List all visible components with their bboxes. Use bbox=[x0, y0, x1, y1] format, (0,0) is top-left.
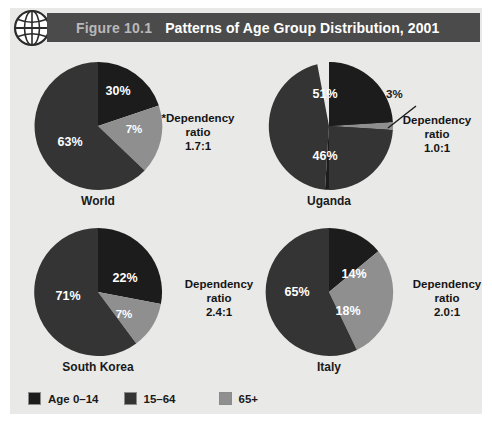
legend-item-age-0-14: Age 0–14 bbox=[28, 392, 99, 405]
slice-label-sk-0: 22% bbox=[112, 271, 137, 285]
legend-swatch-age-15-64 bbox=[124, 392, 137, 405]
slice-label-world-2: 63% bbox=[57, 135, 82, 149]
slice-label-italy-0: 14% bbox=[341, 267, 366, 281]
slice-label-italy-2: 65% bbox=[284, 285, 309, 299]
dependency-value-uganda: 1.0:1 bbox=[394, 141, 480, 155]
dependency-word-uganda: Dependency bbox=[394, 113, 480, 127]
slice-sk-age-0-14 bbox=[98, 228, 162, 304]
dependency-value-italy: 2.0:1 bbox=[404, 305, 490, 319]
legend-swatch-age-65-plus bbox=[219, 392, 232, 405]
pie-south-korea: 22% 7% 71% bbox=[28, 228, 168, 356]
legend-item-age-65-plus: 65+ bbox=[219, 392, 259, 405]
figure-number: Figure 10.1 bbox=[76, 20, 152, 36]
dependency-ratio-italy: Dependency ratio 2.0:1 bbox=[404, 277, 490, 319]
dependency-ratio-word-world: ratio bbox=[157, 125, 239, 139]
legend-label-age-15-64: 15–64 bbox=[144, 393, 176, 405]
legend-item-age-15-64: 15–64 bbox=[124, 392, 176, 405]
pie-world: 30% 7% 63% bbox=[28, 62, 168, 190]
slice-label-world-0: 30% bbox=[105, 84, 130, 98]
dependency-word-world: Dependency bbox=[166, 112, 234, 124]
legend: Age 0–14 15–64 65+ bbox=[28, 392, 283, 405]
slice-label-uganda-1: 3% bbox=[386, 88, 403, 100]
slice-label-world-1: 7% bbox=[126, 123, 143, 135]
legend-swatch-age-0-14 bbox=[28, 392, 41, 405]
dependency-word-italy: Dependency bbox=[404, 277, 490, 291]
dependency-ratio-word-italy: ratio bbox=[404, 291, 490, 305]
slice-label-sk-1: 7% bbox=[116, 308, 133, 320]
slice-uganda-age-15-64-lower-right bbox=[329, 126, 393, 190]
figure-header-bar: Figure 10.1 Patterns of Age Group Distri… bbox=[47, 13, 480, 42]
figure-title: Patterns of Age Group Distribution, 2001 bbox=[165, 20, 439, 36]
dependency-ratio-word-uganda: ratio bbox=[394, 127, 480, 141]
country-label-world: World bbox=[28, 194, 168, 208]
slice-label-italy-1: 18% bbox=[335, 304, 360, 318]
chart-italy: 14% 18% 65% Italy bbox=[259, 228, 399, 368]
dependency-ratio-south-korea: Dependency ratio 2.4:1 bbox=[176, 277, 262, 319]
country-label-uganda: Uganda bbox=[259, 194, 399, 208]
dependency-word-sk: Dependency bbox=[176, 277, 262, 291]
chart-world: 30% 7% 63% World bbox=[28, 62, 168, 202]
globe-icon bbox=[12, 8, 52, 48]
chart-south-korea: 22% 7% 71% South Korea bbox=[28, 228, 168, 368]
dependency-value-world: 1.7:1 bbox=[157, 139, 239, 153]
slice-label-uganda-0: 51% bbox=[312, 87, 337, 101]
pie-italy: 14% 18% 65% bbox=[259, 228, 399, 356]
legend-label-age-0-14: Age 0–14 bbox=[48, 393, 99, 405]
slice-label-uganda-2: 46% bbox=[312, 149, 337, 163]
dependency-ratio-uganda: Dependency ratio 1.0:1 bbox=[394, 113, 480, 155]
legend-label-age-65-plus: 65+ bbox=[239, 393, 259, 405]
dependency-value-sk: 2.4:1 bbox=[176, 305, 262, 319]
figure-root: Figure 10.1 Patterns of Age Group Distri… bbox=[0, 0, 492, 424]
country-label-south-korea: South Korea bbox=[28, 360, 168, 374]
dependency-ratio-world: *Dependency ratio 1.7:1 bbox=[157, 111, 239, 153]
dependency-ratio-word-sk: ratio bbox=[176, 291, 262, 305]
country-label-italy: Italy bbox=[259, 360, 399, 374]
slice-label-sk-2: 71% bbox=[55, 289, 80, 303]
